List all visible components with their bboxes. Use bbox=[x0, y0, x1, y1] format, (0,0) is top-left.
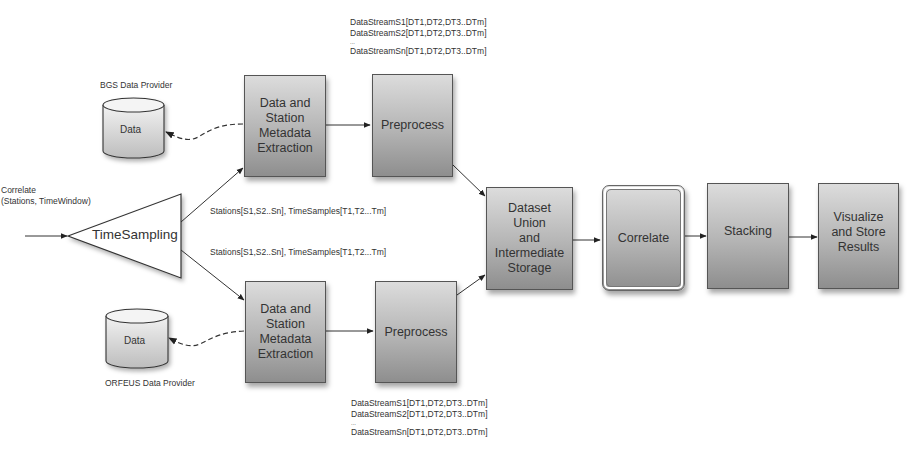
dataset-union-label: Dataset Union and Intermediate Storage bbox=[495, 201, 564, 276]
input-label: Correlate (Stations, TimeWindow) bbox=[1, 185, 91, 206]
arrow-to-bottom-extraction bbox=[181, 250, 244, 300]
dataset-union-box[interactable]: Dataset Union and Intermediate Storage bbox=[486, 187, 573, 290]
bgs-provider-label: BGS Data Provider bbox=[100, 80, 172, 90]
stacking-box[interactable]: Stacking bbox=[707, 183, 789, 289]
box-label-line: Results bbox=[831, 240, 885, 255]
top-extraction-label: Data and Station Metadata Extraction bbox=[257, 96, 313, 156]
bottom-stream-list: DataStreamS1[DT1,DT2,DT3..DTm] DataStrea… bbox=[351, 398, 488, 438]
correlate-label: Correlate bbox=[618, 231, 669, 246]
correlate-box[interactable]: Correlate bbox=[602, 185, 685, 291]
bottom-extraction-box[interactable]: Data and Station Metadata Extraction bbox=[245, 281, 326, 383]
box-label-line: and Store bbox=[831, 225, 885, 240]
box-label-line: Station bbox=[258, 317, 314, 332]
input-label-line: (Stations, TimeWindow) bbox=[1, 196, 91, 207]
box-label-line: Extraction bbox=[257, 141, 313, 156]
stream-item: DataStreamSn[DT1,DT2,DT3..DTm] bbox=[351, 427, 488, 438]
box-label-line: Data and bbox=[257, 96, 313, 111]
stream-item: DataStreamS1[DT1,DT2,DT3..DTm] bbox=[350, 17, 487, 28]
stream-item: DataStreamS1[DT1,DT2,DT3..DTm] bbox=[351, 398, 488, 409]
orfeus-data-label: Data bbox=[124, 335, 145, 346]
box-label-line: and bbox=[495, 231, 564, 246]
box-label-line: Station bbox=[257, 111, 313, 126]
top-preprocess-box[interactable]: Preprocess bbox=[372, 74, 453, 177]
box-label-line: Extraction bbox=[258, 347, 314, 362]
bottom-extraction-label: Data and Station Metadata Extraction bbox=[258, 302, 314, 362]
orfeus-provider-label: ORFEUS Data Provider bbox=[105, 378, 195, 388]
box-label-line: Intermediate bbox=[495, 246, 564, 261]
stream-item: DataStreamS2[DT1,DT2,DT3..DTm] bbox=[350, 28, 487, 39]
timesampling-label: TimeSampling bbox=[92, 227, 178, 242]
edge-label-bottom: Stations[S1,S2..Sn], TimeSamples[T1,T2..… bbox=[210, 247, 386, 257]
stream-ellipsis: ... bbox=[350, 38, 487, 46]
box-label-line: Union bbox=[495, 216, 564, 231]
top-extraction-box[interactable]: Data and Station Metadata Extraction bbox=[244, 75, 326, 177]
box-label-line: Metadata bbox=[257, 126, 313, 141]
edge-label-top: Stations[S1,S2..Sn], TimeSamples[T1,T2..… bbox=[210, 206, 386, 216]
box-label-line: Dataset bbox=[495, 201, 564, 216]
visualize-label: Visualize and Store Results bbox=[831, 210, 885, 255]
box-label-line: Visualize bbox=[831, 210, 885, 225]
stream-item: DataStreamSn[DT1,DT2,DT3..DTm] bbox=[350, 46, 487, 57]
top-stream-list: DataStreamS1[DT1,DT2,DT3..DTm] DataStrea… bbox=[350, 17, 487, 57]
bgs-data-label: Data bbox=[120, 124, 141, 135]
dashed-arrow-bgs bbox=[166, 124, 243, 139]
bottom-preprocess-box[interactable]: Preprocess bbox=[375, 281, 457, 383]
dashed-arrow-orfeus bbox=[169, 331, 244, 346]
stream-item: DataStreamS2[DT1,DT2,DT3..DTm] bbox=[351, 409, 488, 420]
box-label-line: Data and bbox=[258, 302, 314, 317]
input-label-line: Correlate bbox=[1, 185, 91, 196]
top-preprocess-label: Preprocess bbox=[381, 118, 444, 133]
box-label-line: Metadata bbox=[258, 332, 314, 347]
stream-ellipsis: ... bbox=[351, 419, 488, 427]
stacking-label: Stacking bbox=[724, 224, 772, 239]
visualize-box[interactable]: Visualize and Store Results bbox=[818, 183, 899, 289]
arrow-top-preprocess-union bbox=[453, 165, 485, 196]
arrow-bottom-preprocess-union bbox=[457, 275, 485, 295]
bottom-preprocess-label: Preprocess bbox=[384, 325, 447, 340]
box-label-line: Storage bbox=[495, 261, 564, 276]
